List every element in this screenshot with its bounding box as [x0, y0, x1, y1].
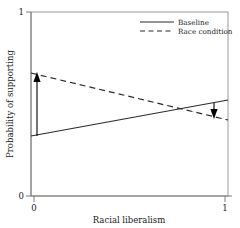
- x-tick-label-max: 1: [222, 203, 227, 213]
- x-axis-title: Racial liberalism: [93, 215, 166, 225]
- y-tick-label-min: 0: [19, 191, 24, 201]
- legend-label-baseline: Baseline: [178, 18, 209, 27]
- legend-label-race-condition: Race condition: [178, 27, 233, 36]
- chart-figure: 1 0 0 1 Racial liberalism Probability of…: [0, 0, 240, 228]
- y-tick-label-max: 1: [19, 7, 24, 17]
- x-tick-label-min: 0: [31, 203, 36, 213]
- plot-frame: [31, 12, 228, 196]
- chart-svg: 1 0 0 1 Racial liberalism Probability of…: [0, 0, 240, 228]
- y-axis-title: Probability of supporting: [5, 50, 15, 158]
